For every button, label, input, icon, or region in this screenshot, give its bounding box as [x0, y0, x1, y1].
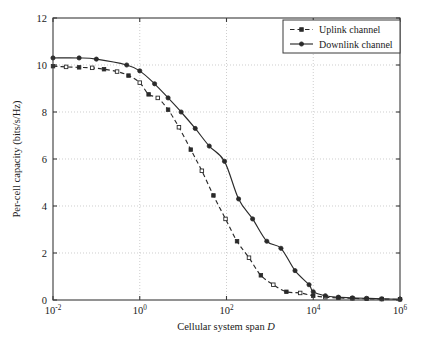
data-point-marker — [127, 74, 130, 78]
y-axis-title: Per-cell capacity (bits/s/Hz) — [11, 100, 23, 217]
data-point-marker — [64, 65, 68, 69]
data-point-marker — [323, 294, 327, 298]
x-axis-title: Cellular system span D — [177, 321, 275, 332]
data-point-marker — [193, 126, 197, 130]
data-point-marker — [77, 56, 81, 60]
y-tick-label: 4 — [42, 201, 48, 212]
data-point-marker — [350, 296, 354, 300]
figure-container: 10-2100102104106024681012 Per-cell capac… — [0, 0, 422, 354]
y-tick-label: 6 — [42, 154, 47, 165]
data-point-marker — [259, 274, 263, 278]
data-point-marker — [311, 290, 315, 294]
data-point-marker — [179, 110, 183, 114]
legend-marker-sample — [300, 28, 304, 32]
y-tick-label: 10 — [37, 60, 48, 71]
x-axis-title-symbol: D — [266, 321, 275, 332]
data-point-marker — [153, 82, 157, 86]
data-point-marker — [147, 93, 151, 97]
chart-legend[interactable]: Uplink channelDownlink channel — [283, 20, 400, 53]
legend-label: Uplink channel — [319, 24, 381, 35]
data-point-marker — [236, 197, 240, 201]
data-point-marker — [102, 67, 106, 71]
data-point-marker — [293, 269, 297, 273]
data-point-marker — [251, 217, 255, 221]
data-point-marker — [166, 108, 170, 112]
y-tick-label: 12 — [37, 13, 48, 24]
data-point-marker — [247, 256, 251, 260]
data-point-marker — [125, 63, 129, 67]
data-point-marker — [90, 66, 94, 70]
legend-label: Downlink channel — [319, 39, 393, 50]
x-axis-title-text: Cellular system span D — [177, 321, 275, 332]
y-axis-title-text: Per-cell capacity (bits/s/Hz) — [11, 100, 23, 217]
data-point-marker — [265, 239, 269, 243]
data-point-marker — [189, 148, 193, 152]
data-point-marker — [207, 144, 211, 148]
data-point-marker — [307, 283, 311, 287]
data-point-marker — [77, 66, 81, 70]
data-point-marker — [115, 70, 119, 74]
data-point-marker — [212, 194, 216, 198]
y-tick-label: 0 — [42, 295, 47, 306]
data-point-marker — [222, 159, 226, 163]
data-point-marker — [279, 246, 283, 250]
data-point-marker — [156, 96, 160, 100]
data-point-marker — [235, 240, 239, 244]
data-point-marker — [166, 96, 170, 100]
data-point-marker — [336, 295, 340, 299]
data-point-marker — [224, 217, 228, 221]
data-point-marker — [272, 283, 276, 287]
x-axis-title-plain: Cellular system span — [177, 321, 265, 332]
data-point-marker — [285, 290, 289, 294]
data-point-marker — [298, 291, 302, 295]
y-tick-label: 2 — [42, 248, 47, 259]
data-point-marker — [200, 169, 204, 173]
data-point-marker — [177, 126, 181, 129]
data-point-marker — [138, 69, 142, 73]
legend-marker-sample — [299, 42, 303, 46]
capacity-vs-span-chart: 10-2100102104106024681012 Per-cell capac… — [0, 0, 422, 354]
data-point-marker — [138, 81, 142, 85]
data-point-marker — [94, 57, 98, 61]
y-tick-label: 8 — [42, 107, 47, 118]
